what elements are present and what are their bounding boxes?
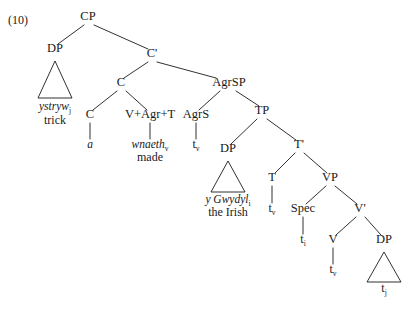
node-cp: CP: [80, 9, 95, 23]
trace-obj-trace: tj: [381, 281, 386, 297]
trace-spec-trace: ti: [300, 232, 305, 248]
node-dp-object: DP: [376, 232, 392, 246]
leaf-subj-gloss: the Irish: [208, 205, 248, 219]
syntax-tree-canvas: (10) CP DP C' C AgrSP C V+Agr+T AgrS TP …: [0, 0, 419, 310]
node-v-agr-t: V+Agr+T: [125, 107, 176, 121]
node-agrsp: AgrSP: [212, 75, 245, 89]
branch-tbar-to-t: [275, 153, 295, 173]
obj-triangle: [367, 252, 401, 282]
branch-vbar-to-v: [336, 217, 356, 235]
syntax-tree-figure: (10) CP DP C' C AgrSP C V+Agr+T AgrS TP …: [0, 0, 419, 310]
branch-cp-to-cbar: [94, 25, 148, 49]
leaf-c-lower-item: a: [87, 138, 93, 150]
node-dp-subject: DP: [220, 141, 236, 155]
node-spec: Spec: [291, 201, 316, 215]
example-number: (10): [8, 13, 28, 27]
node-c-bar: C': [147, 46, 158, 60]
topic-triangle: [38, 61, 72, 98]
leaf-vagrt-gloss: made: [137, 150, 163, 164]
node-v-head: V: [328, 232, 337, 246]
leaf-topic-gloss: trick: [44, 113, 66, 127]
subj-triangle: [211, 161, 245, 192]
node-v-bar: V': [354, 201, 365, 215]
node-agrs: AgrS: [183, 107, 209, 121]
branch-c-to-clower: [93, 91, 117, 110]
node-t-head: T: [268, 170, 276, 184]
node-vp: VP: [322, 170, 338, 184]
node-c-upper: C: [117, 75, 125, 89]
branch-tp-to-tbar: [267, 119, 296, 140]
branch-cbar-to-agrsp: [157, 62, 216, 78]
node-tp: TP: [255, 103, 270, 117]
branch-cbar-to-c: [124, 62, 148, 78]
triangle-layer: [38, 61, 401, 282]
node-t-bar: T': [294, 137, 304, 151]
node-dp-topic: DP: [47, 41, 63, 55]
node-c-lower: C: [86, 107, 94, 121]
